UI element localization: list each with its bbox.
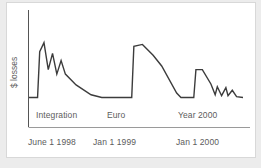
y-axis-label: $ losses <box>9 44 23 100</box>
chart-figure: $ losses Integration Euro Year 2000 June… <box>0 0 261 168</box>
x-tick-june-1-1998: June 1 1998 <box>28 137 76 147</box>
annotation-euro: Euro <box>107 110 125 120</box>
annotation-integration: Integration <box>36 110 77 120</box>
annotation-year-2000: Year 2000 <box>178 110 217 120</box>
chart-card <box>6 2 256 158</box>
x-tick-jan-1-1999: Jan 1 1999 <box>93 137 136 147</box>
x-tick-jan-1-2000: Jan 1 2000 <box>176 137 219 147</box>
